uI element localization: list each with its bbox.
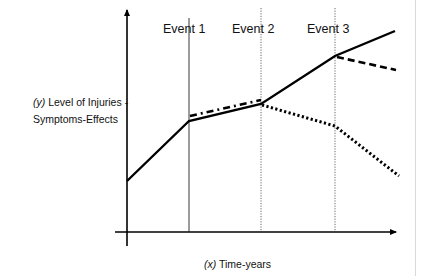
event-2-label: Event 2 (232, 22, 274, 36)
event-3-label: Event 3 (307, 22, 349, 36)
x-axis-var: (x) (204, 258, 216, 270)
page-edge-divider (415, 0, 416, 276)
y-axis-label-line2: Symptoms-Effects (33, 111, 128, 128)
injury-timeline-diagram: Event 1 Event 2 Event 3 (y) Level of Inj… (0, 0, 426, 276)
event-1-label: Event 1 (163, 22, 205, 36)
baseline-trajectory-line (127, 31, 395, 181)
diagram-canvas (0, 0, 426, 276)
y-axis-var: (y) (33, 96, 45, 108)
event2-alternative-line (262, 105, 399, 176)
x-axis-label: (x) Time-years (204, 258, 271, 270)
y-axis-label: (y) Level of Injuries - Symptoms-Effects (33, 94, 128, 128)
x-axis-label-text: Time-years (216, 258, 271, 270)
event3-alternative-line (337, 57, 396, 70)
y-axis-label-line1: Level of Injuries - (45, 96, 128, 108)
